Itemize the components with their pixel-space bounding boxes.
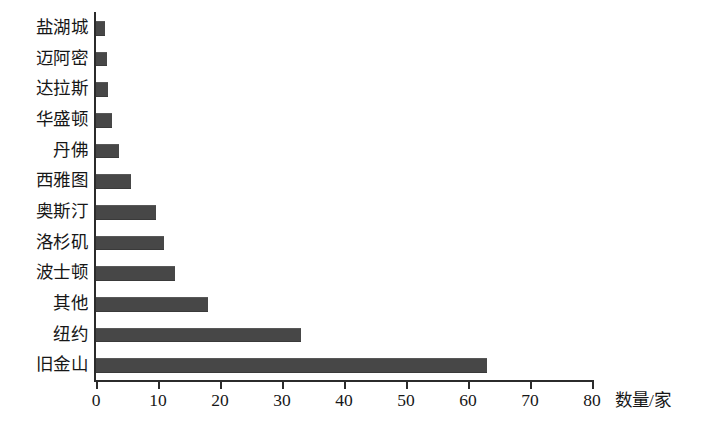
- category-label: 洛杉矶: [0, 227, 88, 258]
- bar-row: [96, 43, 592, 74]
- plot-area: [96, 12, 592, 380]
- bar: [96, 21, 105, 36]
- bar-row: [96, 165, 592, 196]
- category-label: 迈阿密: [0, 43, 88, 74]
- bar-row: [96, 104, 592, 135]
- bar-row: [96, 73, 592, 104]
- x-axis-tick-label: 20: [197, 388, 243, 412]
- bar-row: [96, 257, 592, 288]
- bar: [96, 52, 107, 67]
- bar-row: [96, 196, 592, 227]
- x-axis-tick-label: 30: [259, 388, 305, 412]
- category-label: 丹佛: [0, 135, 88, 166]
- bar: [96, 113, 112, 128]
- category-label: 纽约: [0, 319, 88, 350]
- bar-row: [96, 227, 592, 258]
- category-label: 华盛顿: [0, 104, 88, 135]
- category-label: 旧金山: [0, 349, 88, 380]
- category-label: 其他: [0, 288, 88, 319]
- bar-chart: 数量/家 盐湖城迈阿密达拉斯华盛顿丹佛西雅图奥斯汀洛杉矶波士顿其他纽约旧金山01…: [0, 0, 710, 428]
- x-axis-tick-label: 50: [383, 388, 429, 412]
- x-axis-tick-label: 80: [569, 388, 615, 412]
- x-axis-tick-label: 70: [507, 388, 553, 412]
- category-label: 西雅图: [0, 165, 88, 196]
- x-axis-title: 数量/家: [615, 388, 671, 412]
- bar-row: [96, 12, 592, 43]
- bar-row: [96, 319, 592, 350]
- x-axis-tick-label: 60: [445, 388, 491, 412]
- x-axis-tick-label: 10: [135, 388, 181, 412]
- bar: [96, 358, 487, 373]
- category-label: 奥斯汀: [0, 196, 88, 227]
- bar-row: [96, 288, 592, 319]
- bar: [96, 328, 301, 343]
- category-label: 达拉斯: [0, 73, 88, 104]
- bar: [96, 236, 164, 251]
- bar: [96, 174, 131, 189]
- category-label: 盐湖城: [0, 12, 88, 43]
- bar: [96, 144, 119, 159]
- bar: [96, 82, 108, 97]
- bar-row: [96, 135, 592, 166]
- bar: [96, 266, 175, 281]
- bar-row: [96, 349, 592, 380]
- x-axis-tick-label: 40: [321, 388, 367, 412]
- category-label: 波士顿: [0, 257, 88, 288]
- bar: [96, 297, 208, 312]
- bar: [96, 205, 156, 220]
- x-axis-tick-label: 0: [73, 388, 119, 412]
